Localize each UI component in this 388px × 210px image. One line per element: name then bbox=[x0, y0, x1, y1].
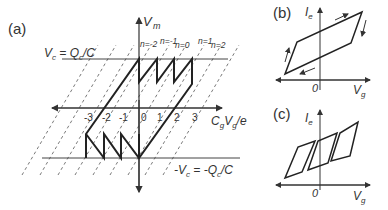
vm-label: V bbox=[143, 14, 153, 29]
svg-text:0: 0 bbox=[312, 82, 319, 94]
svg-text:3: 3 bbox=[192, 112, 198, 123]
panel-a-label: (a) bbox=[8, 20, 26, 37]
panel-b: (b) Ie 0 Vg bbox=[273, 4, 370, 99]
svg-text:1: 1 bbox=[157, 112, 163, 123]
dashed-grid-lines bbox=[22, 45, 239, 175]
tick-labels: -3 -2 -1 0 1 2 3 bbox=[84, 112, 198, 123]
panel-c: (c) Ie 0 Vg bbox=[273, 105, 370, 205]
panel-b-label: (b) bbox=[273, 4, 291, 21]
svg-text:n=2: n=2 bbox=[211, 40, 226, 50]
n-labels: n=-2 n=-1 n=0 n=1 n=2 bbox=[140, 36, 226, 50]
svg-text:Ie: Ie bbox=[305, 111, 313, 127]
x-axis-label: CgVg/e bbox=[211, 114, 247, 130]
panel-c-label: (c) bbox=[273, 105, 291, 122]
svg-text:Vg: Vg bbox=[353, 189, 366, 205]
svg-text:2: 2 bbox=[174, 112, 180, 123]
svg-text:m: m bbox=[153, 21, 161, 31]
svg-text:0: 0 bbox=[312, 187, 319, 199]
ie-label: Ie bbox=[305, 5, 313, 21]
svg-text:0: 0 bbox=[141, 112, 147, 123]
upper-line-label: Vc = Qc/C bbox=[44, 46, 95, 62]
svg-text:n=-2: n=-2 bbox=[140, 39, 158, 49]
vg-label: Vg bbox=[353, 83, 366, 99]
panel-a: (a) V m Vc = Qc/C n=-2 n=- bbox=[8, 14, 247, 192]
lower-line-label: -Vc = -Qc/C bbox=[174, 163, 233, 179]
figure: (a) V m Vc = Qc/C n=-2 n=- bbox=[0, 0, 388, 210]
hysteresis-loop bbox=[285, 12, 362, 74]
svg-text:-1: -1 bbox=[119, 112, 128, 123]
svg-text:-2: -2 bbox=[102, 112, 111, 123]
svg-text:n=0: n=0 bbox=[175, 40, 190, 50]
svg-text:-3: -3 bbox=[84, 112, 93, 123]
hysteresis-loops bbox=[285, 122, 358, 178]
